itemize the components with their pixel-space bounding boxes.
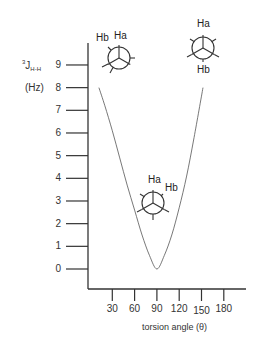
newman-bottom-back-label: Hb: [165, 182, 178, 193]
x-tick-label: 60: [123, 303, 147, 314]
y-tick-label: 4: [47, 172, 61, 183]
x-tick-label: 150: [190, 305, 214, 316]
newman-right-back-label: Hb: [197, 64, 210, 75]
karplus-chart: [0, 0, 259, 351]
y-title-subscript: H-H: [30, 66, 41, 72]
y-tick-label: 3: [47, 195, 61, 206]
newman-left-front-label: Ha: [114, 30, 127, 41]
y-tick-label: 5: [47, 150, 61, 161]
newman-projection-left: [102, 45, 135, 73]
y-tick-label: 1: [47, 240, 61, 251]
y-tick-label: 2: [47, 218, 61, 229]
newman-projection-right: [187, 35, 219, 62]
y-tick-label: 8: [47, 82, 61, 93]
newman-left-back-label: Hb: [96, 32, 109, 43]
y-tick-label: 0: [47, 263, 61, 274]
y-axis-title: 3JH-H: [22, 59, 41, 72]
y-ticks: [66, 65, 88, 269]
x-axis-title: torsion angle (θ): [142, 322, 207, 332]
newman-right-front-label: Ha: [197, 18, 210, 29]
y-tick-label: 9: [47, 59, 61, 70]
x-ticks: [112, 289, 224, 301]
y-axis-unit: (Hz): [25, 82, 44, 93]
x-tick-label: 180: [212, 303, 236, 314]
x-tick-label: 30: [100, 303, 124, 314]
y-tick-label: 7: [47, 104, 61, 115]
x-tick-label: 120: [167, 303, 191, 314]
newman-projection-bottom: [137, 190, 169, 220]
newman-bottom-front-label: Ha: [148, 174, 161, 185]
x-tick-label: 90: [145, 303, 169, 314]
y-tick-label: 6: [47, 127, 61, 138]
